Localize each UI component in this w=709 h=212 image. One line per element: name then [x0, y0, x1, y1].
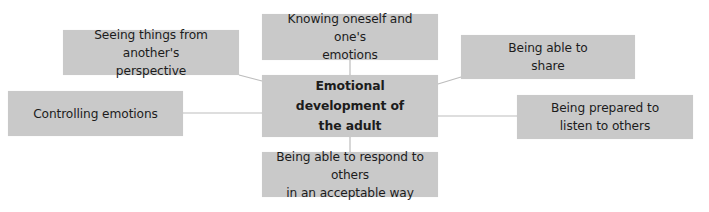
node-label: Knowing oneself and one's emotions: [272, 10, 428, 64]
central-topic-label: Emotional development of the adult: [272, 76, 428, 136]
node-controlling-emotions: Controlling emotions: [8, 91, 183, 136]
mind-map-diagram: Knowing oneself and one's emotions Seein…: [0, 0, 709, 212]
node-knowing-oneself: Knowing oneself and one's emotions: [262, 14, 438, 60]
node-label: Controlling emotions: [33, 105, 158, 123]
node-label: Being able to respond to others in an ac…: [272, 148, 428, 202]
node-prepared-to-listen: Being prepared to listen to others: [517, 95, 693, 139]
node-label: Being able to share: [508, 39, 587, 75]
node-seeing-perspective: Seeing things from another's perspective: [63, 30, 239, 75]
node-able-to-share: Being able to share: [461, 35, 635, 79]
connector-top-right: [438, 77, 461, 84]
node-label: Seeing things from another's perspective: [73, 26, 229, 80]
node-label: Being prepared to listen to others: [551, 99, 659, 135]
node-central-topic: Emotional development of the adult: [262, 75, 438, 137]
node-respond-acceptably: Being able to respond to others in an ac…: [262, 152, 438, 197]
connector-top-left: [239, 75, 262, 81]
